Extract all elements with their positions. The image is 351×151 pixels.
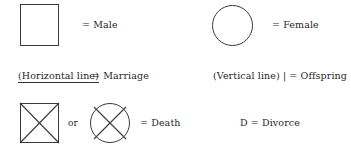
male-square-symbol	[20, 4, 59, 46]
male-legend-label: = Male	[82, 19, 118, 31]
offspring-legend-label: (Vertical line) | = Offspring	[213, 70, 347, 82]
female-legend-label: = Female	[272, 19, 319, 31]
female-circle-symbol	[212, 5, 253, 46]
marriage-legend-label: = Marriage	[92, 70, 149, 82]
pedigree-legend-figure: = Male = Female (Horizontal line) = Marr…	[0, 0, 351, 151]
death-legend-label: = Death	[140, 117, 181, 129]
divorce-legend-label: D = Divorce	[240, 117, 300, 129]
death-circle-cross-icon	[90, 103, 130, 143]
death-square-cross-icon	[20, 103, 59, 143]
death-or-conjunction: or	[68, 117, 78, 129]
marriage-horizontal-line-term: (Horizontal line)	[18, 70, 99, 83]
